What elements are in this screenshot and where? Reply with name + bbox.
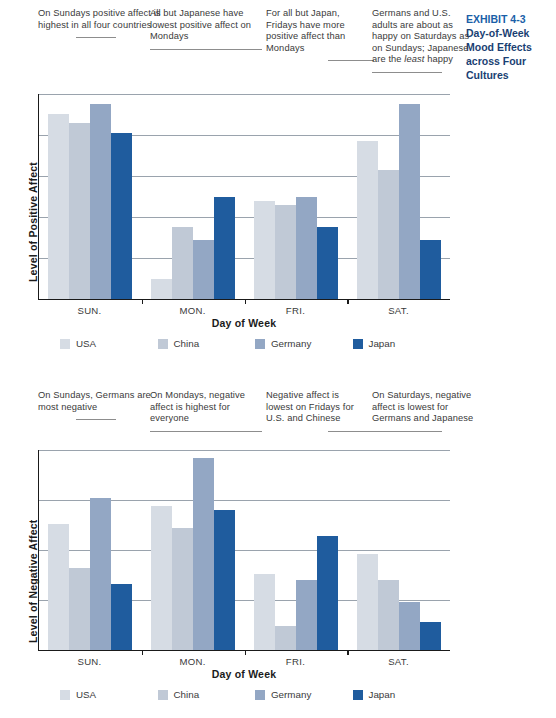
bar-group-sun (39, 94, 142, 299)
chart2-leader-3 (328, 427, 374, 432)
bar-china-sun (69, 123, 90, 299)
legend-swatch-usa-icon (60, 690, 70, 700)
chart2-x-axis-label: Day of Week (38, 668, 450, 680)
chart2-leader-1 (76, 415, 116, 420)
legend-item-usa[interactable]: USA (60, 338, 158, 349)
legend-label: USA (76, 689, 96, 700)
chart2-x-tick-labels: SUN.MON.FRI.SAT. (38, 651, 450, 669)
exhibit-number: EXHIBIT 4-3 (466, 12, 552, 26)
bar-japan-sun (111, 133, 132, 299)
legend-swatch-japan-icon (353, 690, 363, 700)
bar-germany-sat (399, 104, 420, 299)
bar-japan-mon (214, 510, 235, 650)
bar-china-sat (378, 580, 399, 650)
x-tick-label-fri: FRI. (244, 651, 347, 669)
chart1-annotation-3: For all but Japan, Fridays have more pos… (266, 8, 370, 61)
chart1-annotation-2: All but Japanese have lowest positive af… (150, 8, 268, 50)
x-tick-label-sun: SUN. (38, 300, 141, 318)
bar-germany-sat (399, 602, 420, 650)
x-tick-label-sat: SAT. (347, 300, 450, 318)
bar-germany-fri (296, 580, 317, 650)
chart1-annotation-4-text: Germans and U.S. adults are about as hap… (372, 8, 469, 64)
bar-china-mon (172, 227, 193, 299)
chart2-annotation-2: On Mondays, negative affect is highest f… (150, 390, 268, 432)
bar-group-sun (39, 450, 142, 650)
bar-group-mon (142, 450, 245, 650)
chart2-annotation-3-text: Negative affect is lowest on Fridays for… (266, 390, 354, 423)
bar-usa-sun (48, 114, 69, 299)
bar-group-fri (245, 94, 348, 299)
legend-item-germany[interactable]: Germany (255, 689, 353, 700)
legend-swatch-germany-icon (255, 339, 265, 349)
chart1-leader-2 (150, 45, 262, 50)
bar-japan-sat (420, 240, 441, 299)
bar-germany-sun (90, 498, 111, 650)
chart2-annotations: On Sundays, Germans are most negative On… (38, 390, 458, 452)
bar-germany-sun (90, 104, 111, 299)
bar-usa-sat (357, 554, 378, 650)
bar-japan-sat (420, 622, 441, 650)
bar-japan-fri (317, 227, 338, 299)
chart1-leader-1 (76, 33, 116, 38)
bar-china-fri (275, 626, 296, 650)
chart2-annotation-3: Negative affect is lowest on Fridays for… (266, 390, 368, 432)
bar-group-mon (142, 94, 245, 299)
legend-item-japan[interactable]: Japan (353, 689, 451, 700)
legend-swatch-japan-icon (353, 339, 363, 349)
legend-label: Germany (271, 338, 311, 349)
exhibit-title-line-2: Mood Effects (466, 40, 552, 54)
bar-germany-mon (193, 240, 214, 299)
legend-label: China (174, 689, 200, 700)
bar-china-fri (275, 205, 296, 299)
chart2-annotation-1: On Sundays, Germans are most negative (38, 390, 156, 420)
x-tick-label-sun: SUN. (38, 651, 141, 669)
legend-label: Germany (271, 689, 311, 700)
bar-germany-fri (296, 197, 317, 299)
negative-affect-chart: Level of Negative Affect SUN.MON.FRI.SAT… (38, 450, 450, 700)
positive-affect-chart: Level of Positive Affect SUN.MON.FRI.SAT… (38, 94, 450, 349)
chart1-legend: USAChinaGermanyJapan (38, 338, 450, 349)
legend-item-germany[interactable]: Germany (255, 338, 353, 349)
chart2-leader-4 (372, 427, 442, 432)
exhibit-title-line-1: Day-of-Week (466, 26, 552, 40)
bar-groups (39, 450, 450, 650)
bar-china-sun (69, 568, 90, 650)
bar-group-sat (347, 450, 450, 650)
bar-germany-mon (193, 458, 214, 650)
legend-item-china[interactable]: China (158, 338, 256, 349)
bar-usa-fri (254, 574, 275, 650)
bar-groups (39, 94, 450, 299)
bar-japan-sun (111, 584, 132, 650)
chart1-annotation-2-text: All but Japanese have lowest positive af… (150, 8, 251, 41)
legend-label: Japan (369, 338, 396, 349)
bar-usa-mon (151, 279, 172, 299)
legend-item-usa[interactable]: USA (60, 689, 158, 700)
chart1-leader-4 (372, 68, 442, 73)
chart1-annotation-4: Germans and U.S. adults are about as hap… (372, 8, 474, 73)
bar-usa-sat (357, 141, 378, 299)
x-tick-label-mon: MON. (141, 300, 244, 318)
legend-label: Japan (369, 689, 396, 700)
bar-group-sat (347, 94, 450, 299)
legend-label: USA (76, 338, 96, 349)
chart2-plot-area (38, 450, 450, 651)
legend-item-japan[interactable]: Japan (353, 338, 451, 349)
legend-swatch-china-icon (158, 339, 168, 349)
chart2-annotation-1-text: On Sundays, Germans are most negative (38, 390, 151, 412)
chart2-annotation-2-text: On Mondays, negative affect is highest f… (150, 390, 245, 423)
bar-japan-mon (214, 197, 235, 299)
chart1-annotation-1: On Sundays positive affect is highest in… (38, 8, 162, 38)
bar-china-sat (378, 170, 399, 299)
bar-japan-fri (317, 536, 338, 650)
chart1-plot-area (38, 94, 450, 300)
chart2-legend: USAChinaGermanyJapan (38, 689, 450, 700)
chart1-annotation-1-text: On Sundays positive affect is highest in… (38, 8, 161, 30)
x-tick-label-mon: MON. (141, 651, 244, 669)
chart1-annotation-3-text: For all but Japan, Fridays have more pos… (266, 8, 345, 53)
exhibit-title-block: EXHIBIT 4-3 Day-of-Week Mood Effects acr… (466, 12, 552, 82)
exhibit-title-line-4: Cultures (466, 68, 552, 82)
chart2-annotation-4-text: On Saturdays, negative affect is lowest … (372, 390, 473, 423)
legend-item-china[interactable]: China (158, 689, 256, 700)
chart1-x-tick-labels: SUN.MON.FRI.SAT. (38, 300, 450, 318)
chart1-annotations: On Sundays positive affect is highest in… (38, 8, 458, 88)
